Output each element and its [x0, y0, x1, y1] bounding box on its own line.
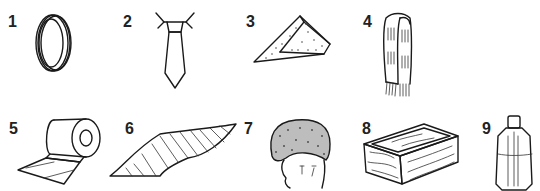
bandage-roll-icon: [14, 114, 104, 190]
scarf-icon: [378, 10, 418, 98]
handkerchief-icon: [252, 10, 344, 66]
item-number: 1: [8, 14, 17, 30]
silk-scarf-icon: [104, 114, 244, 180]
ring-icon: [30, 8, 78, 76]
bottle-icon: [494, 114, 538, 191]
item-number: 9: [482, 121, 491, 137]
wooden-box-icon: [362, 118, 462, 188]
tie-icon: [150, 8, 200, 92]
item-number: 2: [123, 14, 132, 30]
item-number: 4: [363, 14, 372, 30]
item-number: 7: [244, 121, 253, 137]
fur-hat-icon: [266, 116, 336, 190]
